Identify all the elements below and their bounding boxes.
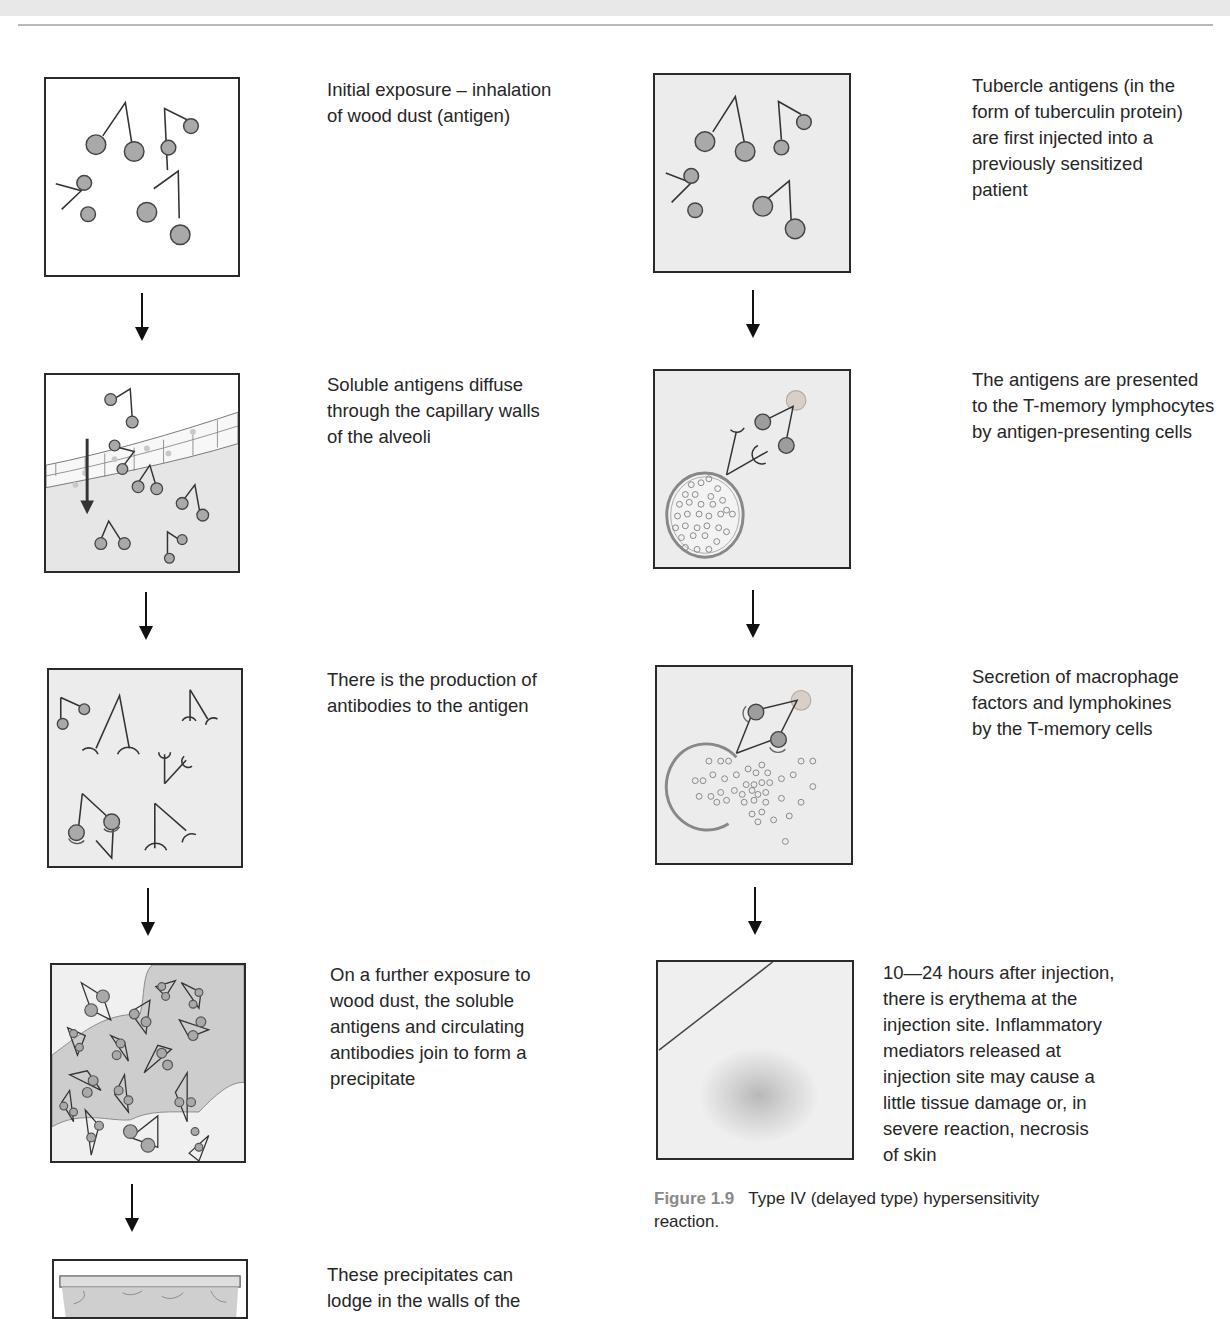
- antibody-illustration: [49, 670, 241, 866]
- step-caption: These precipitates can lodge in the wall…: [327, 1262, 617, 1314]
- down-arrow-icon: [134, 293, 150, 341]
- panel-erythema: [656, 960, 854, 1160]
- step-caption: Tubercle antigens (in the form of tuberc…: [972, 73, 1222, 203]
- precipitate-illustration: [52, 965, 244, 1161]
- figure-label: Figure 1.9: [654, 1189, 734, 1208]
- down-arrow-icon: [745, 590, 761, 638]
- panel-capillary-diffusion: [44, 373, 240, 573]
- step-caption: On a further exposure to wood dust, the …: [330, 962, 620, 1092]
- down-arrow-icon: [138, 592, 154, 640]
- page-header-band: [0, 0, 1230, 16]
- header-divider: [18, 24, 1213, 26]
- alveolar-wall-illustration: [54, 1261, 246, 1317]
- antigen-molecules-illustration: [46, 79, 238, 275]
- down-arrow-icon: [747, 887, 763, 935]
- panel-antigen-presentation: [653, 369, 851, 569]
- step-caption: Initial exposure – inhalation of wood du…: [327, 77, 617, 129]
- injection-site-illustration: [658, 962, 852, 1158]
- down-arrow-icon: [745, 290, 761, 338]
- step-caption: Secretion of macrophage factors and lymp…: [972, 664, 1222, 742]
- tubercle-antigen-illustration: [655, 75, 849, 271]
- down-arrow-icon: [140, 888, 156, 936]
- lymphokine-secretion-illustration: [657, 667, 851, 863]
- panel-antibody-production: [47, 668, 243, 868]
- down-arrow-icon: [124, 1184, 140, 1232]
- panel-tubercle-antigens: [653, 73, 851, 273]
- panel-precipitate-lodging: [52, 1259, 248, 1319]
- step-caption: 10—24 hours after injection, there is er…: [883, 960, 1203, 1168]
- capillary-wall-illustration: [46, 375, 238, 571]
- panel-lymphokine-secretion: [655, 665, 853, 865]
- step-caption: The antigens are presented to the T-memo…: [972, 367, 1222, 445]
- panel-wood-dust-antigens: [44, 77, 240, 277]
- step-caption: There is the production of antibodies to…: [327, 667, 617, 719]
- panel-precipitate-formation: [50, 963, 246, 1163]
- step-caption: Soluble antigens diffuse through the cap…: [327, 372, 617, 450]
- figure-caption: Figure 1.9Type IV (delayed type) hyperse…: [654, 1187, 1094, 1233]
- antigen-presenting-cell-illustration: [655, 371, 849, 567]
